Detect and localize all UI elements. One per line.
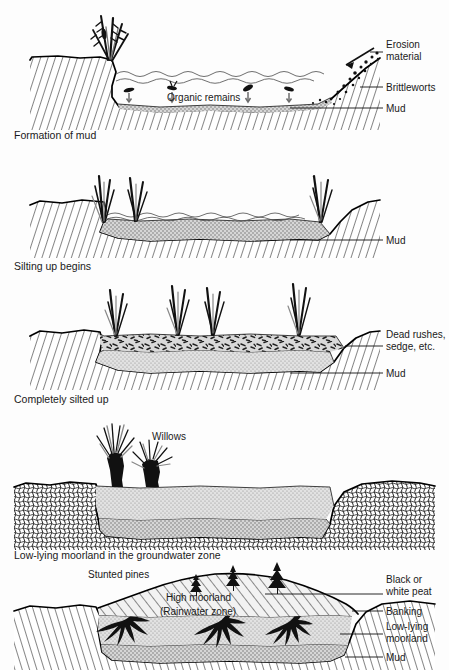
caption-panel-3: Completely silted up — [14, 393, 109, 405]
right-label-mud-5: Mud — [386, 652, 405, 663]
mud-layer-2 — [100, 219, 330, 241]
right-label-dead-rushes-line2: sedge, etc. — [386, 341, 435, 352]
low-lying-moorland-layer-4 — [96, 486, 334, 520]
right-label-mud-3: Mud — [386, 368, 405, 379]
right-label-peat-line1: Black or — [386, 574, 423, 585]
right-label-banking: Banking — [386, 606, 422, 617]
mud-layer-4 — [99, 518, 330, 539]
label-organic-remains: Organic remains — [167, 92, 240, 103]
right-label-low-lying-line1: Low-lying — [386, 621, 428, 632]
label-willows: Willows — [152, 431, 186, 442]
caption-panel-2: Silting up begins — [14, 260, 91, 272]
right-label-peat-line2: white peat — [385, 586, 432, 597]
right-label-mud-1: Mud — [386, 103, 405, 114]
mud-layer-5 — [101, 644, 348, 663]
moorland-formation-diagram: Organic remains Erosion material Brittle… — [0, 0, 449, 670]
dead-rushes-sedge-layer — [100, 334, 344, 352]
right-label-brittleworts: Brittleworts — [386, 82, 435, 93]
caption-panel-4: Low-lying moorland in the groundwater zo… — [14, 549, 221, 561]
right-label-dead-rushes-line1: Dead rushes, — [386, 329, 445, 340]
caption-panel-1: Formation of mud — [14, 129, 96, 141]
right-label-mud-2: Mud — [386, 235, 405, 246]
right-label-erosion-material-line2: material — [386, 51, 422, 62]
right-label-low-lying-line2: moorland — [386, 633, 428, 644]
label-high-moorland: High moorland — [166, 592, 231, 603]
right-label-erosion-material-line1: Erosion — [386, 39, 420, 50]
mud-layer-3 — [96, 350, 334, 373]
label-stunted-pines: Stunted pines — [88, 569, 149, 580]
label-rainwater-zone: (Rainwater zone) — [160, 606, 236, 617]
